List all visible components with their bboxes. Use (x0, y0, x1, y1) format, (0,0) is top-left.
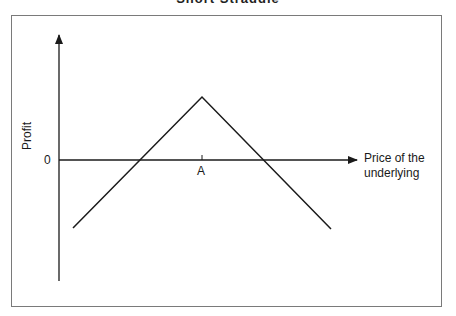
payoff-line (73, 97, 331, 229)
x-axis-label: Price of the underlying (364, 151, 425, 181)
x-axis-label-line1: Price of the (364, 151, 425, 166)
y-axis-label: Profit (20, 122, 34, 150)
strike-label: A (197, 164, 205, 178)
x-axis-label-line2: underlying (364, 166, 425, 181)
zero-label: 0 (44, 153, 51, 167)
